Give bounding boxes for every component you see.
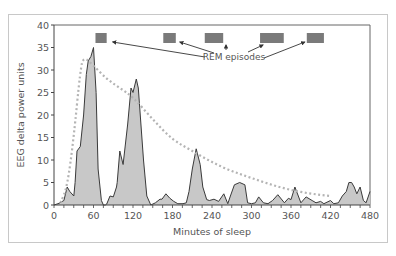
rem-episode-bar bbox=[95, 33, 106, 43]
y-tick-label: 20 bbox=[37, 110, 49, 121]
area-fill bbox=[54, 48, 370, 206]
y-tick-label: 40 bbox=[37, 20, 49, 31]
y-tick-label: 35 bbox=[37, 42, 49, 53]
rem-arrow bbox=[113, 42, 205, 57]
y-tick-label: 5 bbox=[43, 177, 49, 188]
y-axis-title: EEG delta power units bbox=[15, 62, 26, 167]
y-tick-label: 0 bbox=[43, 200, 49, 211]
y-tick-label: 15 bbox=[37, 132, 49, 143]
y-tick-label: 25 bbox=[37, 87, 49, 98]
chart-canvas: 0510152025303540060120180240300360420480… bbox=[0, 0, 396, 256]
x-tick-label: 480 bbox=[361, 210, 379, 221]
x-axis-title: Minutes of sleep bbox=[173, 226, 251, 237]
area-outline bbox=[54, 48, 370, 206]
y-tick-label: 30 bbox=[37, 65, 49, 76]
x-tick-label: 180 bbox=[163, 210, 181, 221]
rem-episode-bar bbox=[260, 33, 284, 43]
rem-arrow bbox=[248, 45, 263, 52]
rem-arrow bbox=[264, 42, 305, 58]
rem-episodes-label: REM episodes bbox=[203, 52, 266, 62]
x-tick-label: 60 bbox=[87, 210, 99, 221]
y-tick-label: 10 bbox=[37, 155, 49, 166]
rem-episode-bar bbox=[163, 33, 176, 43]
x-tick-label: 300 bbox=[242, 210, 260, 221]
rem-episode-bar bbox=[307, 33, 324, 43]
rem-episode-bar bbox=[205, 33, 223, 43]
x-tick-label: 240 bbox=[203, 210, 221, 221]
x-tick-label: 420 bbox=[321, 210, 339, 221]
x-tick-label: 120 bbox=[124, 210, 142, 221]
x-tick-label: 0 bbox=[51, 210, 57, 221]
x-tick-label: 360 bbox=[282, 210, 300, 221]
delta-power-area bbox=[54, 48, 370, 206]
